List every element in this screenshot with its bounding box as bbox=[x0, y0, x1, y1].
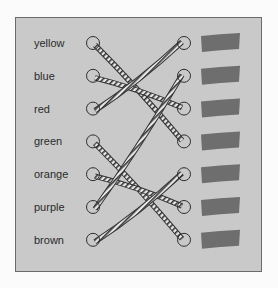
color-swatch bbox=[201, 197, 240, 216]
color-swatch bbox=[201, 230, 240, 249]
color-swatch bbox=[201, 66, 240, 85]
left-peg-icon bbox=[87, 135, 100, 148]
color-swatch bbox=[201, 164, 240, 183]
color-swatch bbox=[201, 131, 240, 150]
color-swatches bbox=[201, 33, 240, 249]
ropes bbox=[95, 42, 182, 242]
color-swatch bbox=[201, 99, 240, 118]
color-swatch bbox=[201, 33, 240, 52]
left-peg-icon bbox=[87, 37, 100, 50]
rope-diagram bbox=[0, 0, 278, 288]
left-pegs bbox=[87, 37, 100, 247]
